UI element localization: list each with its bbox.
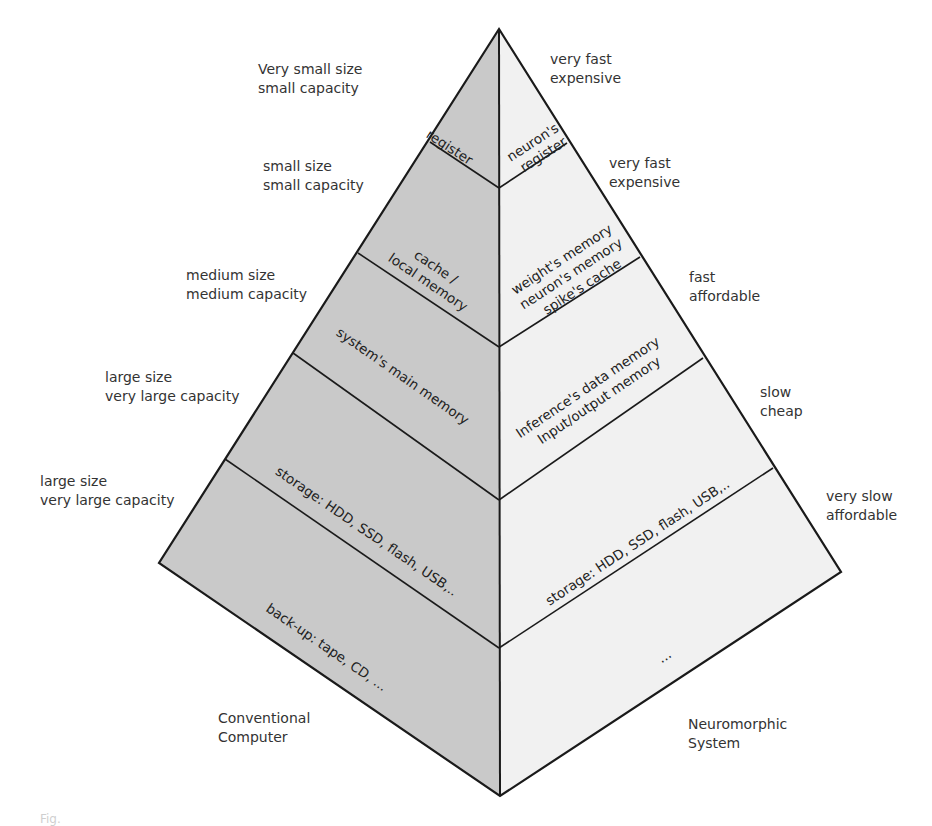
left-annotation-3: large size very large capacity [105, 368, 239, 406]
left-annotation-4: large size very large capacity [40, 472, 174, 510]
right-annotation-1: very fast expensive [609, 154, 680, 192]
right-annotation-0: very fast expensive [550, 50, 621, 88]
left-annotation-0: Very small size small capacity [258, 60, 362, 98]
right-annotation-4: very slow affordable [826, 487, 897, 525]
right-annotation-2: fast affordable [689, 268, 760, 306]
conventional-computer-title: Conventional Computer [218, 709, 310, 747]
left-annotation-2: medium size medium capacity [186, 266, 307, 304]
figure-caption: Fig. [40, 812, 61, 826]
right-annotation-3: slow cheap [760, 383, 803, 421]
center-spine [499, 29, 500, 796]
neuromorphic-system-title: Neuromorphic System [688, 715, 787, 753]
left-annotation-1: small size small capacity [263, 157, 364, 195]
